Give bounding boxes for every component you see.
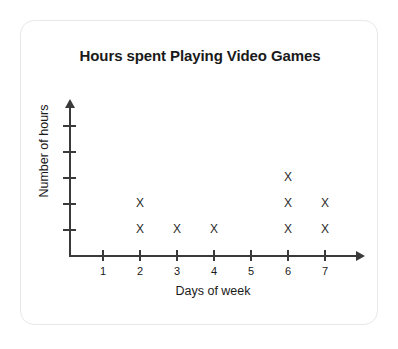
y-axis-tick: [63, 203, 76, 205]
y-axis-tick: [63, 177, 76, 179]
x-axis-tick-label: 4: [204, 265, 224, 277]
x-axis-arrow-icon: [356, 251, 365, 261]
x-axis-tick-label: 6: [278, 265, 298, 277]
x-axis-tick: [287, 250, 289, 261]
x-axis-tick: [102, 250, 104, 261]
x-axis-tick: [324, 250, 326, 261]
x-axis-tick: [176, 250, 178, 261]
y-axis-tick: [63, 125, 76, 127]
data-point-marker: X: [167, 223, 187, 235]
data-point-marker: X: [278, 171, 298, 183]
data-point-marker: X: [315, 197, 335, 209]
data-point-marker: X: [315, 223, 335, 235]
x-axis-tick: [250, 250, 252, 261]
data-point-marker: X: [204, 223, 224, 235]
plot-area: 1234567 XXXXXXXXX Number of hours Days o…: [21, 21, 379, 326]
x-axis-tick-label: 3: [167, 265, 187, 277]
x-axis-tick-label: 5: [241, 265, 261, 277]
x-axis-label: Days of week: [69, 284, 357, 298]
x-axis-tick-label: 1: [93, 265, 113, 277]
y-axis-line: [69, 107, 71, 256]
chart-card: Hours spent Playing Video Games 1234567 …: [20, 20, 378, 325]
x-axis-tick-label: 7: [315, 265, 335, 277]
data-point-marker: X: [278, 223, 298, 235]
data-point-marker: X: [130, 197, 150, 209]
y-axis-tick: [63, 151, 76, 153]
data-point-marker: X: [278, 197, 298, 209]
y-axis-arrow-icon: [65, 99, 75, 108]
data-point-marker: X: [130, 223, 150, 235]
x-axis-tick: [139, 250, 141, 261]
y-axis-tick: [63, 229, 76, 231]
x-axis-tick-label: 2: [130, 265, 150, 277]
y-axis-label: Number of hours: [37, 91, 51, 211]
x-axis-tick: [213, 250, 215, 261]
